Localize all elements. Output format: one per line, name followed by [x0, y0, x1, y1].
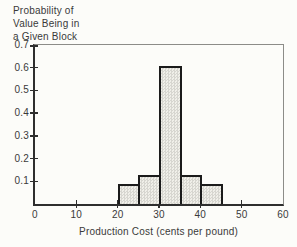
y-axis-tick: [30, 45, 38, 47]
histogram-bar: [200, 184, 223, 204]
y-axis-tick: [30, 181, 38, 183]
histogram-bar: [159, 66, 182, 204]
x-tick-label: 50: [230, 209, 254, 221]
y-axis-tick: [30, 90, 38, 92]
histogram-bar: [138, 175, 161, 204]
y-tick-label: 0.3: [3, 130, 29, 142]
y-tick-label: 0.4: [3, 107, 29, 119]
y-tick-label: 0.2: [3, 153, 29, 165]
plot-area: [33, 44, 284, 206]
histogram-bar: [180, 175, 203, 204]
x-tick-label: 30: [147, 209, 171, 221]
x-axis-title: Production Cost (cents per pound): [33, 226, 284, 237]
x-tick-label: 20: [106, 209, 130, 221]
y-axis-title-line-2: Value Being in: [13, 17, 80, 30]
y-axis-tick: [30, 158, 38, 160]
y-tick-label: 0.7: [3, 39, 29, 51]
histogram-bar: [118, 184, 141, 204]
y-tick-label: 0.6: [3, 62, 29, 74]
y-tick-label: 0.5: [3, 84, 29, 96]
y-axis-tick: [30, 67, 38, 69]
x-tick-label: 10: [64, 209, 88, 221]
y-axis-tick: [30, 112, 38, 114]
x-tick-label: 40: [188, 209, 212, 221]
x-axis-tick: [241, 200, 243, 208]
y-axis-title: Probability of Value Being in a Given Bl…: [13, 4, 80, 43]
x-tick-label: 0: [23, 209, 47, 221]
x-axis-tick: [76, 200, 78, 208]
y-axis-tick: [30, 135, 38, 137]
x-tick-label: 60: [271, 209, 295, 221]
y-tick-label: 0.1: [3, 175, 29, 187]
y-axis-title-line-1: Probability of: [13, 4, 80, 17]
